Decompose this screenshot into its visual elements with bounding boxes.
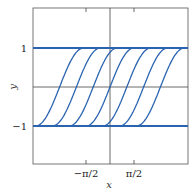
x-axis-label: x — [106, 179, 112, 190]
chart: 1 −1 −π/2 π/2 x y — [0, 0, 194, 192]
ytick-label-1: 1 — [21, 43, 27, 54]
xtick-label-neg-pi-half: −π/2 — [74, 168, 99, 179]
y-axis-label: y — [7, 84, 18, 91]
ytick-label-neg1: −1 — [12, 121, 27, 132]
xtick-label-pi-half: π/2 — [126, 168, 142, 179]
